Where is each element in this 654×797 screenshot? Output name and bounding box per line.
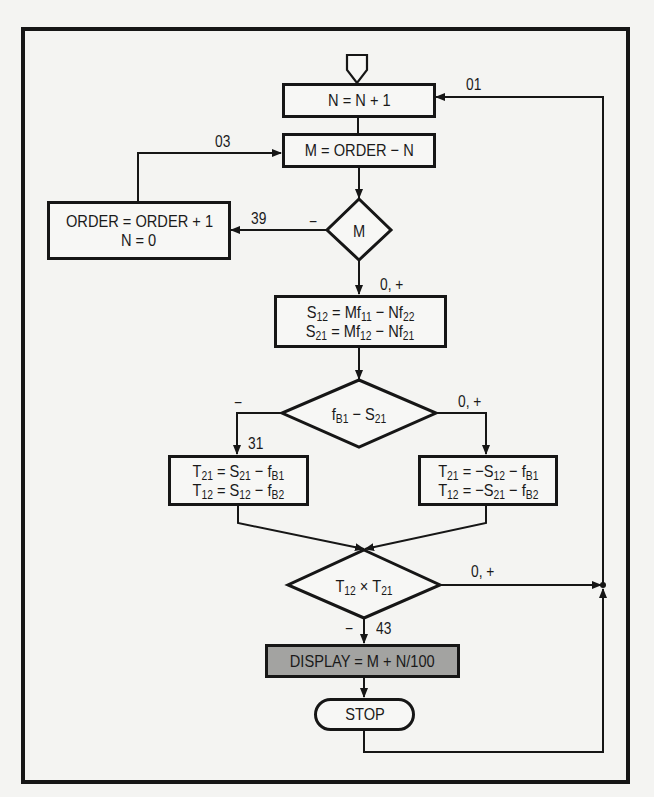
process-text-line1: T21 = S21 − fB1 [193,462,285,481]
label-step-03: 03 [215,134,230,150]
label-step-31: 31 [248,436,263,452]
junction-dot [600,582,606,588]
process-text-line2: N = 0 [121,231,156,250]
process-text-line2: S21 = Mf12 − Nf21 [306,322,414,341]
decision-t-text: T12 × T21 [335,578,392,595]
label-step-01: 01 [466,77,481,93]
terminator-stop: STOP [314,698,415,731]
process-compute-m: M = ORDER − N [282,133,436,168]
label-step-39: 39 [251,211,266,227]
process-text-line1: S12 = Mf11 − Nf22 [307,303,415,322]
process-increment-n: N = N + 1 [282,83,436,118]
label-step-43: 43 [376,621,391,637]
label-m-zero-positive: 0, + [380,277,403,293]
label-f-zero-positive: 0, + [458,394,481,410]
process-text-line1: ORDER = ORDER + 1 [65,212,212,231]
start-connector-icon [347,55,367,83]
process-compute-t-left: T21 = S21 − fB1 T12 = S12 − fB2 [168,455,309,506]
process-text-line2: T12 = S12 − fB2 [193,481,285,500]
process-text-line1: T21 = −S12 − fB1 [438,462,538,481]
process-compute-s: S12 = Mf11 − Nf22 S21 = Mf12 − Nf21 [274,295,447,348]
process-increment-order: ORDER = ORDER + 1 N = 0 [47,201,231,260]
terminator-text: STOP [345,705,385,724]
process-text: N = N + 1 [328,91,391,110]
process-text-line2: T12 = −S21 − fB2 [438,481,538,500]
label-f-negative: − [234,395,242,411]
label-t-negative: − [345,621,353,637]
decision-f-text: fB1 − S21 [332,406,387,423]
decision-m-text: M [353,223,365,240]
label-m-negative: − [309,214,317,230]
process-compute-t-right: T21 = −S12 − fB1 T12 = −S21 − fB2 [418,455,558,506]
label-t-zero-positive: 0, + [471,564,494,580]
process-text: M = ORDER − N [305,141,414,160]
process-text: DISPLAY = M + N/100 [290,652,435,671]
process-display-result: DISPLAY = M + N/100 [265,644,460,678]
